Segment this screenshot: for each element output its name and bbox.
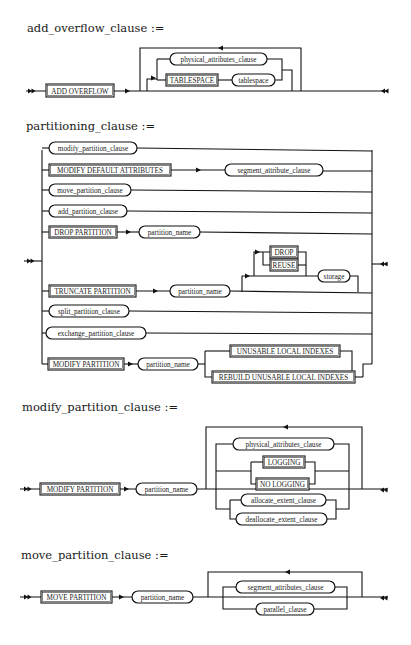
end-arrow-icon <box>380 262 388 267</box>
svg-text:partition_name: partition_name <box>146 361 190 369</box>
nonterminal-allocate-extent-clause: allocate_extent_clause <box>241 494 326 506</box>
nonterminal-deallocate-extent-clause: deallocate_extent_clause <box>236 513 327 525</box>
svg-text:parallel_clause: parallel_clause <box>263 606 306 614</box>
svg-text:REUSE: REUSE <box>273 262 296 270</box>
svg-text:NO LOGGING: NO LOGGING <box>260 481 305 489</box>
keyword-modify-partition: MODIFY PARTITION <box>48 358 124 370</box>
keyword-rebuild-unusable-local-indexes: REBUILD UNUSABLE LOCAL INDEXES <box>212 371 355 383</box>
nonterminal-segment-attributes-clause: segment_attributes_clause <box>236 581 335 593</box>
nonterminal-drop-partition-name: partition_name <box>139 226 200 238</box>
svg-text:MODIFY PARTITION: MODIFY PARTITION <box>53 361 121 369</box>
svg-text:segment_attributes_clause: segment_attributes_clause <box>248 584 324 592</box>
svg-text:physical_attributes_clause: physical_attributes_clause <box>246 441 322 449</box>
keyword-move-partition: MOVE PARTITION <box>41 591 112 603</box>
keyword-truncate-partition: TRUNCATE PARTITION <box>49 285 136 297</box>
diagram-title: move_partition_clause := <box>21 548 169 562</box>
keyword-no-logging: NO LOGGING <box>256 478 309 490</box>
nonterminal-partition-name: partition_name <box>132 591 193 603</box>
nonterminal-partition-name: partition_name <box>136 483 197 495</box>
move-partition-clause-diagram: move_partition_clause := MOVE PARTITION … <box>20 548 388 615</box>
svg-text:partition_name: partition_name <box>145 486 189 494</box>
svg-text:DROP: DROP <box>274 249 293 257</box>
svg-text:TRUNCATE PARTITION: TRUNCATE PARTITION <box>54 288 131 296</box>
svg-text:MOVE PARTITION: MOVE PARTITION <box>47 594 108 602</box>
diagram-title: add_overflow_clause := <box>27 21 165 35</box>
nonterminal-tablespace: tablespace <box>232 74 275 86</box>
keyword-drop-partition: DROP PARTITION <box>49 226 117 238</box>
svg-text:segment_attribute_clause: segment_attribute_clause <box>237 167 310 175</box>
keyword-add-overflow: ADD OVERFLOW <box>46 84 114 97</box>
svg-text:LOGGING: LOGGING <box>268 459 301 467</box>
svg-text:ADD OVERFLOW: ADD OVERFLOW <box>51 88 109 96</box>
svg-text:move_partition_clause: move_partition_clause <box>57 187 122 195</box>
svg-text:partition_name: partition_name <box>141 594 185 602</box>
partitioning-clause-diagram: partitioning_clause := modify_partition_… <box>24 119 388 383</box>
keyword-modify-default-attributes: MODIFY DEFAULT ATTRIBUTES <box>49 164 171 176</box>
arrow-left-icon <box>218 46 223 51</box>
arrow-right-icon <box>125 89 130 94</box>
arrow-left-icon <box>285 570 290 575</box>
svg-text:allocate_extent_clause: allocate_extent_clause <box>251 497 316 505</box>
arrow-right-icon <box>245 274 250 279</box>
nonterminal-modify-partition-name: partition_name <box>138 358 198 370</box>
arrow-right-icon <box>124 487 129 492</box>
keyword-tablespace: TABLESPACE <box>166 74 218 86</box>
start-arrow-icon <box>28 89 36 94</box>
svg-text:MODIFY PARTITION: MODIFY PARTITION <box>47 486 115 494</box>
nonterminal-modify-partition-clause: modify_partition_clause <box>49 142 137 154</box>
svg-text:storage: storage <box>324 273 345 281</box>
syntax-diagrams: add_overflow_clause := ADD OVERFLOW phys… <box>0 0 411 645</box>
modify-partition-clause-diagram: modify_partition_clause := MODIFY PARTIT… <box>20 400 388 525</box>
nonterminal-storage: storage <box>318 270 350 282</box>
add-overflow-clause-diagram: add_overflow_clause := ADD OVERFLOW phys… <box>26 21 389 97</box>
start-arrow-icon <box>24 595 32 600</box>
svg-text:split_partition_clause: split_partition_clause <box>58 308 120 316</box>
svg-text:partition_name: partition_name <box>178 288 222 296</box>
arrow-right-icon <box>126 230 131 235</box>
svg-text:tablespace: tablespace <box>239 77 269 85</box>
end-arrow-icon <box>381 89 389 94</box>
svg-text:REBUILD UNUSABLE LOCAL INDEXES: REBUILD UNUSABLE LOCAL INDEXES <box>219 374 348 382</box>
svg-text:deallocate_extent_clause: deallocate_extent_clause <box>246 516 318 524</box>
arrow-right-icon <box>128 362 133 367</box>
arrow-right-icon <box>119 595 124 600</box>
nonterminal-parallel-clause: parallel_clause <box>256 603 314 615</box>
nonterminal-exchange-partition-clause: exchange_partition_clause <box>46 327 146 339</box>
nonterminal-split-partition-clause: split_partition_clause <box>49 305 129 317</box>
svg-text:MODIFY DEFAULT ATTRIBUTES: MODIFY DEFAULT ATTRIBUTES <box>57 167 163 175</box>
arrow-right-icon <box>196 168 201 173</box>
diagram-title: partitioning_clause := <box>26 119 155 133</box>
end-arrow-icon <box>380 596 388 601</box>
arrow-right-icon <box>255 250 260 255</box>
svg-text:physical_attributes_clause: physical_attributes_clause <box>181 56 257 64</box>
nonterminal-segment-attribute-clause: segment_attribute_clause <box>225 164 323 176</box>
arrow-left-icon <box>283 425 288 430</box>
keyword-drop: DROP <box>270 246 298 258</box>
keyword-logging: LOGGING <box>263 456 305 468</box>
nonterminal-physical-attributes-clause: physical_attributes_clause <box>170 53 267 65</box>
svg-text:exchange_partition_clause: exchange_partition_clause <box>58 330 135 338</box>
arrow-right-icon <box>153 289 158 294</box>
nonterminal-truncate-partition-name: partition_name <box>170 285 230 297</box>
start-arrow-icon <box>27 259 35 264</box>
svg-text:partition_name: partition_name <box>148 229 192 237</box>
diagram-title: modify_partition_clause := <box>22 400 178 414</box>
end-arrow-icon <box>380 488 388 493</box>
arrow-right-icon <box>151 76 156 81</box>
nonterminal-add-partition-clause: add_partition_clause <box>49 205 127 217</box>
svg-text:modify_partition_clause: modify_partition_clause <box>58 145 128 153</box>
keyword-modify-partition: MODIFY PARTITION <box>40 483 120 495</box>
nonterminal-move-partition-clause: move_partition_clause <box>49 184 131 196</box>
keyword-reuse: REUSE <box>270 259 298 271</box>
svg-text:add_partition_clause: add_partition_clause <box>58 208 118 216</box>
svg-text:DROP PARTITION: DROP PARTITION <box>54 229 112 237</box>
keyword-unusable-local-indexes: UNUSABLE LOCAL INDEXES <box>230 345 340 357</box>
start-arrow-icon <box>24 487 32 492</box>
nonterminal-physical-attributes-clause: physical_attributes_clause <box>233 438 334 450</box>
svg-text:UNUSABLE LOCAL INDEXES: UNUSABLE LOCAL INDEXES <box>237 348 333 356</box>
svg-text:TABLESPACE: TABLESPACE <box>170 77 215 85</box>
